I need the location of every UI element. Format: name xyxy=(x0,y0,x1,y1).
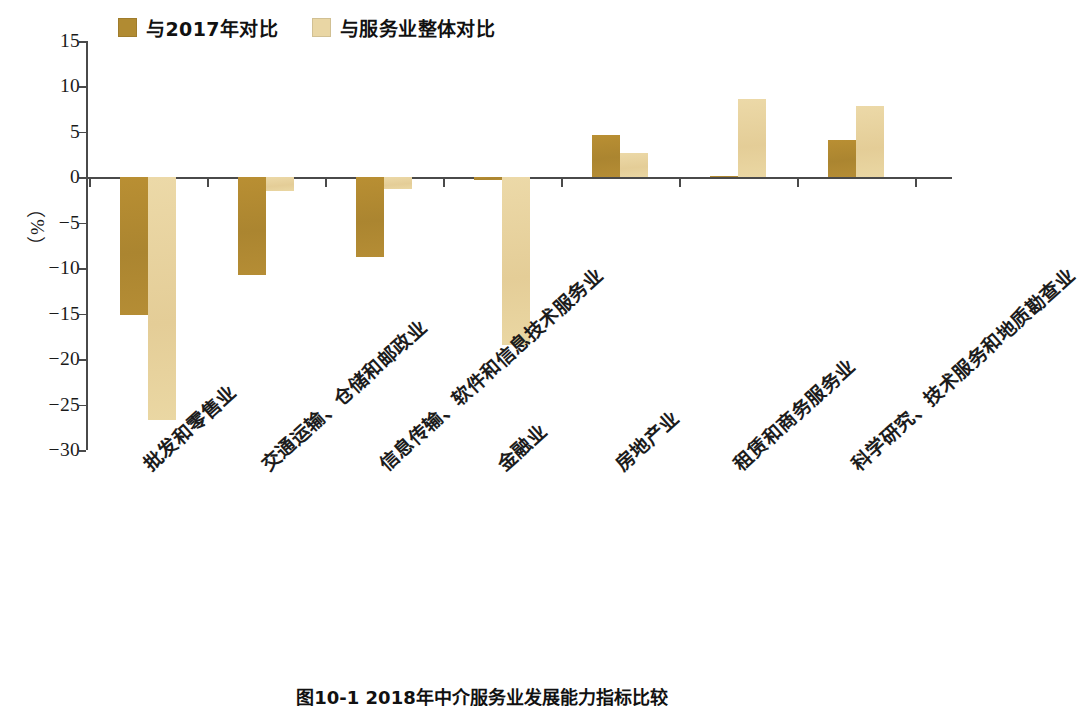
chart-legend: 与2017年对比 与服务业整体对比 xyxy=(118,14,495,41)
legend-item-0: 与2017年对比 xyxy=(118,14,278,41)
x-label-4: 房地产业 xyxy=(608,404,684,476)
legend-label-1: 与服务业整体对比 xyxy=(340,14,495,41)
legend-swatch-light xyxy=(312,18,331,37)
x-label-6: 科学研究、技术服务和地质勘查业 xyxy=(844,260,1079,476)
x-label-0: 批发和零售业 xyxy=(136,378,241,476)
legend-label-0: 与2017年对比 xyxy=(146,14,278,41)
legend-item-1: 与服务业整体对比 xyxy=(312,14,495,41)
x-label-2: 信息传输、软件和信息技术服务业 xyxy=(372,260,607,476)
x-label-5: 租赁和商务服务业 xyxy=(726,352,860,476)
x-label-3: 金融业 xyxy=(490,417,552,476)
legend-swatch-dark xyxy=(118,18,137,37)
figure-caption: 图10-1 2018年中介服务业发展能力指标比较 xyxy=(0,686,964,706)
